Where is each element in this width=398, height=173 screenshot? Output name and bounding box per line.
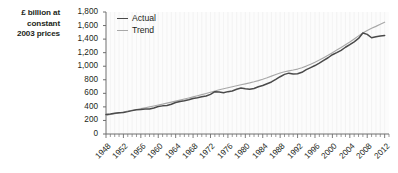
gdp-trend-chart: £ billion at constant 2003 prices 020040… — [0, 0, 398, 173]
x-axis-tick-labels: 1948195219561960196419681972197619801984… — [0, 0, 398, 173]
